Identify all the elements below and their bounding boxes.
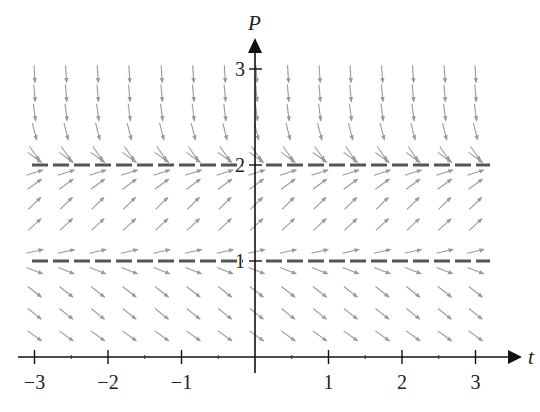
direction-arrow-icon: [193, 85, 195, 102]
direction-arrow-icon: [218, 179, 232, 189]
direction-arrow-icon: [89, 250, 106, 254]
direction-arrow-icon: [467, 170, 483, 175]
direction-arrow-icon: [161, 104, 163, 121]
direction-arrow-icon: [313, 331, 327, 341]
direction-arrow-icon: [469, 179, 483, 189]
direction-arrow-icon: [376, 198, 388, 210]
direction-arrow-icon: [33, 104, 35, 121]
direction-arrow-icon: [218, 331, 232, 341]
direction-arrow-icon: [374, 268, 390, 274]
direction-arrow-icon: [280, 268, 296, 274]
direction-arrow-icon: [315, 147, 325, 161]
direction-arrow-icon: [312, 268, 328, 274]
direction-arrow-icon: [161, 65, 162, 82]
direction-arrow-icon: [280, 170, 296, 175]
direction-arrow-icon: [91, 219, 104, 231]
direction-arrow-icon: [155, 309, 168, 320]
direction-arrow-icon: [344, 331, 358, 341]
direction-arrow-icon: [344, 179, 358, 189]
direction-arrow-icon: [249, 268, 265, 274]
direction-arrow-icon: [377, 147, 387, 161]
direction-arrow-icon: [443, 123, 447, 139]
direction-arrow-icon: [185, 250, 202, 254]
direction-arrow-icon: [91, 179, 105, 189]
direction-arrow-icon: [121, 268, 137, 274]
direction-arrow-icon: [97, 85, 98, 102]
direction-arrow-icon: [153, 250, 170, 254]
direction-arrow-icon: [193, 65, 194, 82]
direction-arrow-icon: [313, 219, 326, 231]
direction-arrow-icon: [319, 65, 320, 82]
direction-arrow-icon: [28, 331, 42, 341]
direction-arrow-icon: [26, 250, 43, 254]
direction-arrow-icon: [188, 147, 198, 161]
direction-arrow-icon: [406, 309, 419, 320]
direction-arrow-icon: [96, 123, 100, 139]
direction-arrow-icon: [217, 170, 233, 175]
direction-arrow-icon: [408, 147, 418, 161]
direction-arrow-icon: [440, 147, 450, 161]
direction-arrow-icon: [312, 170, 328, 175]
direction-arrow-icon: [250, 179, 264, 189]
direction-arrow-icon: [123, 309, 136, 320]
direction-arrow-icon: [256, 65, 257, 82]
direction-arrow-icon: [97, 104, 99, 121]
direction-arrow-icon: [122, 331, 136, 341]
direction-arrow-icon: [438, 309, 451, 320]
direction-arrow-icon: [220, 147, 230, 161]
direction-arrow-icon: [185, 170, 201, 175]
direction-arrow-icon: [28, 198, 40, 210]
direction-arrow-icon: [413, 65, 414, 82]
direction-arrow-icon: [405, 268, 421, 274]
direction-arrow-icon: [187, 287, 200, 298]
x-axis: t: [18, 345, 535, 369]
direction-arrow-icon: [381, 104, 383, 121]
x-tick-label: 1: [324, 371, 334, 393]
direction-arrow-icon: [90, 170, 106, 175]
x-axis-title: t: [528, 345, 535, 369]
direction-arrow-icon: [250, 198, 262, 210]
direction-arrow-icon: [123, 198, 135, 210]
direction-arrow-icon: [467, 250, 484, 254]
direction-arrow-icon: [438, 219, 451, 231]
direction-arrow-icon: [344, 309, 357, 320]
direction-arrow-icon: [407, 198, 419, 210]
direction-arrow-icon: [350, 104, 352, 121]
direction-arrow-icon: [469, 287, 482, 298]
direction-arrow-icon: [123, 219, 136, 231]
direction-arrow-icon: [343, 268, 359, 274]
direction-arrow-icon: [155, 219, 168, 231]
direction-arrow-icon: [60, 198, 72, 210]
direction-arrow-icon: [348, 123, 352, 139]
direction-arrow-icon: [187, 198, 199, 210]
slope-field-chart: t P −3−2−1123 123: [0, 0, 540, 412]
direction-arrow-icon: [28, 309, 41, 320]
direction-arrow-icon: [224, 85, 226, 102]
direction-arrow-icon: [186, 331, 200, 341]
direction-arrow-icon: [252, 147, 262, 161]
direction-arrow-icon: [350, 85, 352, 102]
x-tick-label: 3: [471, 371, 481, 393]
direction-arrow-icon: [412, 104, 414, 121]
direction-arrow-icon: [473, 123, 477, 139]
direction-arrow-icon: [91, 331, 105, 341]
direction-arrow-icon: [437, 170, 453, 175]
direction-arrow-icon: [283, 147, 293, 161]
direction-arrow-icon: [191, 123, 195, 139]
direction-arrow-icon: [475, 85, 476, 102]
direction-arrow-icon: [32, 123, 36, 139]
x-axis-arrowhead-icon: [508, 350, 522, 364]
direction-arrow-icon: [376, 219, 389, 231]
direction-arrow-icon: [374, 170, 390, 175]
direction-arrow-icon: [66, 65, 67, 82]
direction-arrow-icon: [313, 309, 326, 320]
direction-arrow-icon: [319, 85, 320, 102]
direction-arrow-icon: [474, 104, 476, 121]
direction-arrow-icon: [344, 219, 357, 231]
direction-arrow-icon: [406, 179, 420, 189]
direction-arrow-icon: [58, 268, 74, 274]
x-tick-label: 2: [397, 371, 407, 393]
direction-arrow-icon: [91, 287, 104, 298]
direction-arrow-icon: [311, 250, 328, 254]
direction-arrow-icon: [342, 250, 359, 254]
